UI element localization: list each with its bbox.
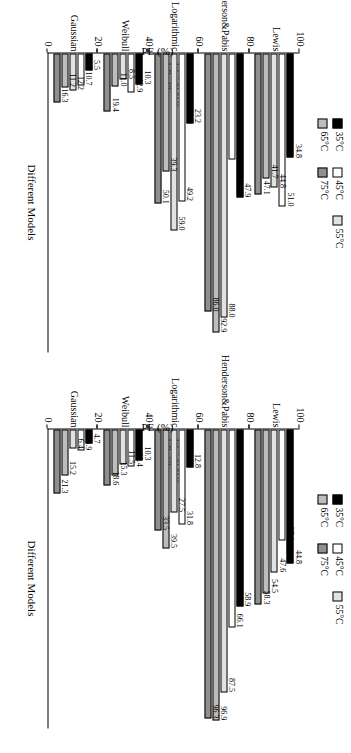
legend-item-75c: 75°C xyxy=(318,167,328,200)
legend-item-35c: 35°C xyxy=(333,118,343,151)
bar-value-label: 23.2 xyxy=(192,109,200,123)
bar: 19.4 xyxy=(103,53,110,111)
bar-groups-1: Lewis34.851.044.841.747.1Henderson&Pabis… xyxy=(47,53,299,352)
bar-group: Lewis34.851.044.841.747.1 xyxy=(252,53,296,352)
category-label: Weibull xyxy=(119,20,129,51)
bar-value-label: 5.5 xyxy=(91,60,99,70)
x-axis-label: Different Models xyxy=(25,52,37,352)
bar-value-label: 21.3 xyxy=(59,479,67,493)
bar-group: Weibull10.312.98.511.019.4 xyxy=(101,53,145,352)
plot-area-1: 020406080100 Lewis34.851.044.841.747.1He… xyxy=(47,52,299,352)
legend-item-65c: 65°C xyxy=(318,118,328,151)
bar-value-label: 34.8 xyxy=(293,143,301,157)
category-label: Lewis xyxy=(270,403,280,427)
bar-value-label: 41.7 xyxy=(269,164,277,178)
rotated-figure: 35°C 45°C 55°C xyxy=(0,0,351,753)
legend-item-75c: 75°C xyxy=(318,543,328,576)
bar: 33.5 xyxy=(154,429,161,530)
bar: 58.3 xyxy=(254,429,261,604)
bar-value-label: 15.2 xyxy=(67,461,75,475)
bar: 88.0 xyxy=(220,53,227,317)
bar-value-label: 6.4 xyxy=(75,438,83,448)
x-axis-label: Different Models xyxy=(25,428,37,728)
bar: 6.4 xyxy=(69,429,76,448)
bar-value-label: 51.0 xyxy=(285,192,293,206)
category-label: Henderson&Pabis xyxy=(219,354,229,427)
y-tick-label: 80 xyxy=(244,398,254,422)
y-axis-label: PE (%) xyxy=(141,44,173,56)
legend-item-55c: 55°C xyxy=(333,591,343,624)
legend-swatch-icon xyxy=(318,167,328,177)
y-tick xyxy=(46,48,47,52)
category-label: Henderson&Pabis xyxy=(219,0,229,51)
category-label: Lewis xyxy=(270,27,280,51)
category-label: Weibull xyxy=(119,396,129,427)
bar-value-label: 66.1 xyxy=(234,613,242,627)
bar: 66.1 xyxy=(228,429,235,627)
bar-value-label: 33.5 xyxy=(160,516,168,530)
bar-value-label: 37.1 xyxy=(285,526,293,540)
bar-group: Logarithmic12.831.827.539.533.5 xyxy=(151,429,195,728)
legend-item-45c: 45°C xyxy=(333,543,343,576)
bar-value-label: 12.9 xyxy=(134,78,142,92)
bar: 44.8 xyxy=(286,429,293,563)
legend-item-55c: 55°C xyxy=(333,215,343,248)
bar: 47.9 xyxy=(236,53,243,197)
bar-value-label: 12.8 xyxy=(192,453,200,467)
bar-value-label: 59.0 xyxy=(176,216,184,230)
bar: 58.9 xyxy=(236,429,243,606)
y-tick-label: 20 xyxy=(92,398,102,422)
bar-value-label: 31.8 xyxy=(184,510,192,524)
category-separator-tick xyxy=(248,48,249,52)
figure-canvas: 35°C 45°C 55°C xyxy=(0,0,351,753)
bar: 5.5 xyxy=(85,53,92,70)
legend-swatch-icon xyxy=(318,494,328,504)
panel-row: 35°C 45°C 55°C xyxy=(0,0,351,753)
bar-group: Henderson&Pabis58.966.187.596.996.3 xyxy=(201,429,245,728)
plot-area-2: 020406080100 Lewis44.837.147.654.558.3He… xyxy=(47,428,299,728)
bar: 11.0 xyxy=(111,53,118,86)
bar-value-label: 44.8 xyxy=(293,549,301,563)
y-tick xyxy=(298,424,299,428)
bar-value-label: 27.5 xyxy=(176,498,184,512)
legend-swatch-icon xyxy=(333,591,343,601)
legend-swatch-icon xyxy=(333,215,343,225)
bar: 49.2 xyxy=(178,53,185,201)
y-tick xyxy=(298,48,299,52)
legend-label: 55°C xyxy=(333,604,343,624)
legend-item-35c: 35°C xyxy=(333,494,343,527)
legend-swatch-icon xyxy=(333,494,343,504)
legend-label: 75°C xyxy=(318,556,328,576)
bar-group: Logarithmic23.249.259.039.350.1 xyxy=(151,53,195,352)
legend-swatch-icon xyxy=(333,118,343,128)
bar-value-label: 92.9 xyxy=(218,318,226,332)
legend-item-45c: 45°C xyxy=(333,167,343,200)
bar-value-label: 39.3 xyxy=(168,157,176,171)
legend-swatch-icon xyxy=(318,118,328,128)
legend-swatch-icon xyxy=(333,543,343,553)
bar: 54.5 xyxy=(262,429,269,593)
bar-value-label: 58.3 xyxy=(261,590,269,604)
bar: 27.5 xyxy=(170,429,177,512)
bar: 47.6 xyxy=(270,429,277,572)
bar-group: Henderson&Pabis47.935.488.092.986.0 xyxy=(201,53,245,352)
legend-2: 35°C 45°C 55°C xyxy=(315,494,345,704)
bar: 39.3 xyxy=(162,53,169,171)
bar-value-label: 47.6 xyxy=(277,558,285,572)
bar-value-label: 19.4 xyxy=(110,97,118,111)
legend-swatch-icon xyxy=(318,543,328,553)
category-separator-tick xyxy=(96,424,97,428)
bar-value-label: 18.6 xyxy=(110,471,118,485)
bar-value-label: 58.9 xyxy=(242,592,250,606)
bar-value-label: 96.3 xyxy=(210,704,218,718)
bar-value-label: 88.0 xyxy=(226,303,234,317)
bar-groups-2: Lewis44.837.147.654.558.3Henderson&Pabis… xyxy=(47,429,299,728)
bar: 86.0 xyxy=(204,53,211,311)
bar: 37.1 xyxy=(278,429,285,540)
y-tick-label: 40 xyxy=(143,22,153,46)
bar: 16.3 xyxy=(53,53,60,102)
bar: 47.1 xyxy=(254,53,261,194)
y-tick-label: 80 xyxy=(244,22,254,46)
legend-label: 75°C xyxy=(318,180,328,200)
bar: 59.0 xyxy=(170,53,177,230)
